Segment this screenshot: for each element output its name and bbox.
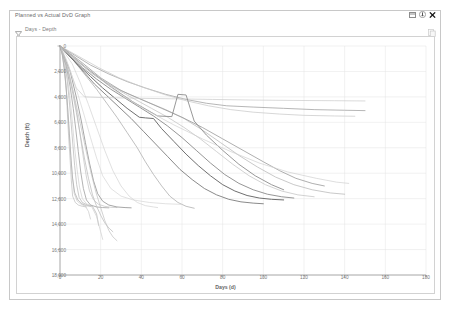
y-tick-label: 12,000: [26, 196, 66, 201]
y-tick-label: 8,000: [26, 145, 66, 150]
y-axis-title: Depth (ft): [24, 110, 30, 160]
y-tick-label: 2,000: [26, 69, 66, 74]
x-tick-label: 140: [330, 275, 360, 280]
filter-bar[interactable]: Days - Depth: [15, 23, 56, 34]
x-tick-label: 80: [208, 275, 238, 280]
panel-header: Planned vs Actual DvD Graph: [10, 11, 440, 23]
y-tick-label: 4,000: [26, 94, 66, 99]
edit-icon[interactable]: [428, 23, 436, 31]
chart-container: Depth (ft) Days (d) 02,0004,0006,0008,00…: [16, 36, 435, 294]
x-tick-label: 0: [45, 275, 75, 280]
y-tick-label: 0: [26, 44, 66, 49]
window-controls: [409, 11, 436, 18]
page-title: Planned vs Actual DvD Graph: [15, 12, 90, 18]
plot-area: Depth (ft) Days (d) 02,0004,0006,0008,00…: [17, 37, 434, 293]
x-tick-label: 20: [86, 275, 116, 280]
x-axis-title: Days (d): [17, 284, 434, 290]
x-tick-label: 100: [248, 275, 278, 280]
close-icon[interactable]: [429, 11, 436, 18]
download-icon[interactable]: [419, 11, 426, 18]
x-tick-label: 180: [411, 275, 435, 280]
y-tick-label: 14,000: [26, 222, 66, 227]
filter-label: Days - Depth: [25, 26, 56, 32]
x-tick-label: 40: [126, 275, 156, 280]
x-tick-label: 160: [370, 275, 400, 280]
y-tick-label: 6,000: [26, 120, 66, 125]
x-tick-label: 120: [289, 275, 319, 280]
dvd-line-chart: [17, 37, 435, 294]
y-tick-label: 16,000: [26, 247, 66, 252]
restore-icon[interactable]: [409, 11, 416, 18]
dvd-graph-panel: Planned vs Actual DvD Graph: [9, 10, 441, 300]
funnel-icon: [15, 25, 22, 33]
y-tick-label: 10,000: [26, 171, 66, 176]
x-tick-label: 60: [167, 275, 197, 280]
